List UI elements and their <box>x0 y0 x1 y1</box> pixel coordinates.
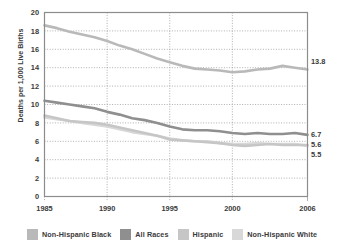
y-tick-label: 18 <box>31 27 39 36</box>
y-tick-label: 20 <box>31 8 39 17</box>
y-tick-label: 8 <box>35 119 39 128</box>
y-tick-label: 12 <box>31 82 39 91</box>
chart-figure: Deaths per 1,000 Live Births 02468101214… <box>0 0 344 251</box>
y-tick-label: 14 <box>31 63 40 72</box>
legend-swatch <box>232 229 243 240</box>
chart-legend: Non-Hispanic BlackAll RacesHispanicNon-H… <box>0 224 344 244</box>
legend-item[interactable]: Non-Hispanic White <box>232 229 317 240</box>
legend-swatch <box>27 229 38 240</box>
legend-label: Non-Hispanic Black <box>42 230 111 239</box>
y-tick-label: 16 <box>31 45 39 54</box>
y-tick-label: 2 <box>35 174 39 183</box>
series-line <box>45 101 308 135</box>
legend-swatch <box>178 229 189 240</box>
x-tick-label: 2006 <box>299 204 315 213</box>
x-tick-label: 2000 <box>224 204 240 213</box>
y-tick-label: 10 <box>31 100 39 109</box>
gridlines <box>45 13 308 197</box>
y-tick-labels: 02468101214161820 <box>31 8 40 201</box>
legend-swatch <box>120 229 131 240</box>
data-labels: 13.86.75.65.5 <box>311 57 325 159</box>
legend-item[interactable]: Non-Hispanic Black <box>27 229 111 240</box>
legend-item[interactable]: Hispanic <box>178 229 224 240</box>
series-line <box>45 25 308 72</box>
x-tick-label: 1990 <box>99 204 115 213</box>
data-label: 13.8 <box>311 57 325 66</box>
plot-area: 02468101214161820 19851990199520002006 1… <box>0 0 344 251</box>
y-tick-label: 0 <box>35 192 39 201</box>
legend-label: Hispanic <box>193 230 224 239</box>
data-label: 5.5 <box>311 150 321 159</box>
y-tick-label: 4 <box>35 155 40 164</box>
series-lines <box>45 25 308 146</box>
x-tick-labels: 19851990199520002006 <box>36 204 315 213</box>
x-tick-label: 1985 <box>36 204 52 213</box>
legend-label: Non-Hispanic White <box>247 230 317 239</box>
x-tick-label: 1995 <box>162 204 178 213</box>
data-label: 6.7 <box>311 130 321 139</box>
legend-item[interactable]: All Races <box>120 229 168 240</box>
x-tick-marks <box>45 197 308 202</box>
y-tick-label: 6 <box>35 137 39 146</box>
data-label: 5.6 <box>311 140 321 149</box>
infant-mortality-chart: Deaths per 1,000 Live Births 02468101214… <box>0 0 344 251</box>
legend-label: All Races <box>135 230 168 239</box>
